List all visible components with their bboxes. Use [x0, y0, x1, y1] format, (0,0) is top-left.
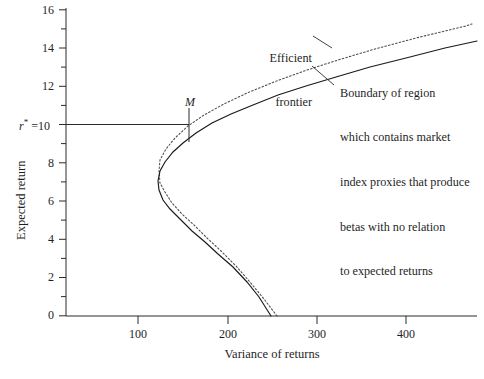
- y-axis-major-ticks: [59, 10, 66, 316]
- x-axis-title: Variance of returns: [172, 347, 372, 362]
- x-tick-label-300: 300: [297, 327, 337, 341]
- x-tick-label-100: 100: [118, 327, 158, 341]
- annotation-boundary-line-5: to expected returns: [340, 264, 482, 279]
- y-tick-label-4: 4: [26, 232, 54, 246]
- y-tick-label-16: 16: [26, 3, 54, 17]
- annotation-boundary-line-3: index proxies that produce: [340, 175, 482, 190]
- r-star-label: r* =10: [19, 117, 50, 133]
- y-tick-label-12: 12: [26, 79, 54, 93]
- annotation-efficient-frontier: Efficient frontier: [228, 21, 312, 140]
- x-tick-label-200: 200: [208, 327, 248, 341]
- x-tick-label-400: 400: [386, 327, 426, 341]
- annotation-boundary-line-2: which contains market: [340, 130, 482, 145]
- y-tick-label-0: 0: [26, 308, 54, 322]
- y-tick-label-6: 6: [26, 194, 54, 208]
- annotation-efficient-frontier-line-1: Efficient: [228, 51, 312, 66]
- leader-line-efficient-frontier: [313, 36, 332, 48]
- r-star-asterisk: *: [24, 117, 29, 127]
- annotation-boundary-line-1: Boundary of region: [340, 86, 482, 101]
- r-star-value: =10: [31, 119, 50, 133]
- y-axis-title: Expected return: [14, 161, 29, 240]
- y-tick-label-8: 8: [26, 156, 54, 170]
- marker-label-M: M: [185, 95, 195, 109]
- annotation-efficient-frontier-line-2: frontier: [228, 95, 312, 110]
- leader-line-boundary: [312, 66, 334, 85]
- figure-capm-variance-expected-return: 16 14 12 8 6 4 2 0 r* =10 100 200 300 40…: [0, 0, 484, 379]
- y-tick-label-14: 14: [26, 41, 54, 55]
- y-tick-label-2: 2: [26, 270, 54, 284]
- x-axis-ticks: [138, 316, 406, 324]
- annotation-boundary-region: Boundary of region which contains market…: [340, 56, 482, 309]
- annotation-boundary-line-4: betas with no relation: [340, 220, 482, 235]
